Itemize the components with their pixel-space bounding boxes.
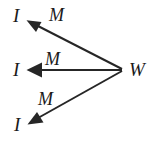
edge-middle-group	[27, 63, 123, 78]
edge-top-group	[27, 20, 123, 69]
node-label-i-middle: I	[13, 60, 19, 79]
node-label-w: W	[129, 60, 145, 79]
edge-label-m-top: M	[49, 6, 64, 24]
edge-middle-arrowhead-icon	[27, 63, 43, 78]
node-label-i-bottom: I	[14, 115, 20, 134]
edge-label-m-middle: M	[45, 50, 60, 68]
node-label-i-top: I	[13, 6, 19, 25]
edge-bottom-arrowhead-icon	[28, 112, 44, 125]
diagram-canvas: W I I I M M M	[0, 0, 156, 142]
edge-label-m-bottom: M	[38, 90, 53, 108]
